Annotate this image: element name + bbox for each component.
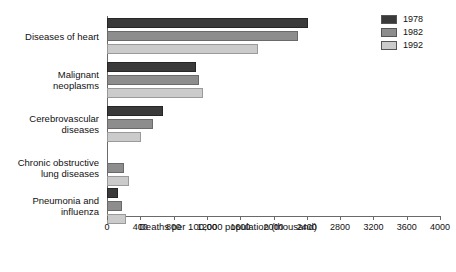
bar[interactable] — [107, 119, 153, 129]
x-axis-tick — [207, 216, 208, 220]
category-axis-labels: Diseases of heartMalignant neoplasmsCere… — [0, 16, 103, 216]
bar-chart: 197819821992 Diseases of heartMalignant … — [0, 0, 456, 272]
bar[interactable] — [107, 106, 163, 116]
bar-group — [107, 62, 440, 101]
category-label: Cerebrovascular diseases — [29, 113, 99, 135]
bar[interactable] — [107, 132, 141, 142]
category-label: Diseases of heart — [25, 31, 99, 42]
x-axis-tick — [107, 216, 108, 220]
bar[interactable] — [107, 75, 199, 85]
x-axis-tick — [307, 216, 308, 220]
bar[interactable] — [107, 163, 124, 173]
bar[interactable] — [107, 201, 122, 211]
x-axis-tick — [373, 216, 374, 220]
category-label: Pneumonia and influenza — [32, 195, 99, 217]
x-axis-tick — [274, 216, 275, 220]
bar[interactable] — [107, 18, 308, 28]
bar-group — [107, 150, 440, 189]
x-axis-tick — [174, 216, 175, 220]
bar[interactable] — [107, 44, 258, 54]
category-label: Chronic obstructive lung diseases — [18, 157, 99, 179]
x-axis-tick — [140, 216, 141, 220]
bar[interactable] — [107, 188, 118, 198]
x-axis-tick — [407, 216, 408, 220]
x-axis-tick — [340, 216, 341, 220]
bar[interactable] — [107, 62, 196, 72]
bar[interactable] — [107, 31, 298, 41]
x-axis-tick — [440, 216, 441, 220]
x-axis-title: Deaths per 100,000 population (thousand) — [0, 221, 456, 232]
category-label: Malignant neoplasms — [53, 69, 99, 91]
bar[interactable] — [107, 88, 203, 98]
bar[interactable] — [107, 176, 129, 186]
bar-group — [107, 18, 440, 57]
x-axis-tick — [240, 216, 241, 220]
bar-group — [107, 106, 440, 145]
plot-area: 040080012001600200024002800320036004000 — [107, 16, 440, 216]
